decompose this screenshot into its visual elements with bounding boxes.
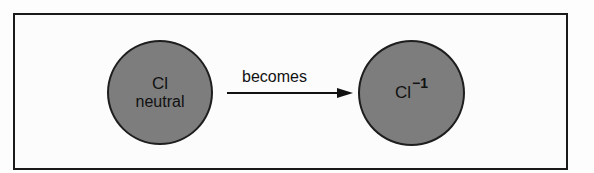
ion-symbol: Cl [395, 83, 411, 103]
neutral-chlorine-atom: Cl neutral [107, 40, 213, 145]
ion-charge: −1 [412, 75, 428, 91]
right-arrow-icon [225, 86, 355, 100]
ion-formula: Cl −1 [395, 83, 428, 103]
arrow-label: becomes [242, 68, 307, 86]
atom-symbol: Cl [152, 74, 168, 93]
chloride-ion: Cl −1 [358, 40, 465, 146]
atom-state-label: neutral [136, 93, 185, 111]
